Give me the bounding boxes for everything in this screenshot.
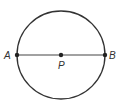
circle-diagram: A P B [0,0,121,106]
point-a-label: A [3,50,11,61]
point-a-dot [15,53,19,57]
point-b-dot [103,53,107,57]
point-p-dot [59,53,63,57]
point-b-label: B [109,50,116,61]
point-p-label: P [58,60,65,71]
